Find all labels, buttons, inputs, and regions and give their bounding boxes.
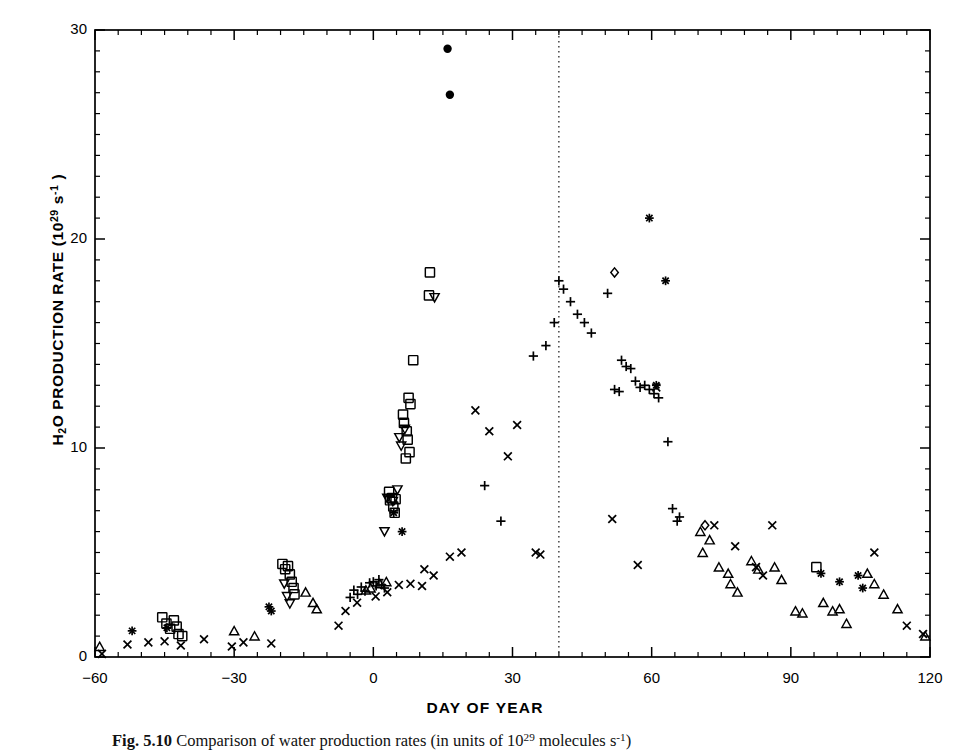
caption-end: ) bbox=[626, 731, 632, 750]
marker-triangle-up bbox=[301, 588, 310, 596]
marker-circle-filled bbox=[446, 91, 454, 99]
marker-triangle-up bbox=[835, 605, 844, 613]
figure-caption: Fig. 5.10 Comparison of water production… bbox=[112, 731, 902, 756]
marker-square bbox=[405, 448, 414, 457]
marker-triangle-up bbox=[726, 579, 735, 587]
x-tick-label: 60 bbox=[617, 669, 687, 686]
marker-triangle-up bbox=[733, 588, 742, 596]
x-tick-label: 120 bbox=[895, 669, 965, 686]
marker-square bbox=[812, 563, 821, 572]
marker-triangle-up bbox=[863, 569, 872, 577]
marker-triangle-up bbox=[230, 627, 239, 635]
marker-triangle-up bbox=[870, 579, 879, 587]
marker-triangle-up bbox=[714, 563, 723, 571]
series-plus bbox=[346, 276, 685, 602]
marker-diamond bbox=[611, 268, 619, 277]
plot-frame bbox=[95, 30, 930, 657]
x-tick-label: 90 bbox=[756, 669, 826, 686]
y-tick-label: 10 bbox=[35, 438, 87, 455]
scatter-plot bbox=[0, 0, 970, 700]
series-open-square bbox=[158, 268, 821, 641]
series-asterisk bbox=[128, 214, 867, 636]
marker-triangle-up bbox=[842, 619, 851, 627]
marker-triangle-up bbox=[698, 548, 707, 556]
marker-triangle-up bbox=[879, 590, 888, 598]
y-axis-label: H2O PRODUCTION RATE (1029 s-1 ) bbox=[48, 100, 67, 520]
marker-triangle-up bbox=[770, 563, 779, 571]
marker-triangle-up bbox=[819, 598, 828, 606]
caption-figure-number: Fig. 5.10 bbox=[112, 731, 172, 750]
x-tick-label: −30 bbox=[199, 669, 269, 686]
figure-container: H2O PRODUCTION RATE (1029 s-1 ) DAY OF Y… bbox=[0, 0, 970, 756]
series-open-up-triangle bbox=[95, 527, 930, 650]
marker-square bbox=[409, 356, 418, 365]
marker-square bbox=[425, 268, 434, 277]
marker-circle-filled bbox=[443, 45, 451, 53]
marker-triangle-up bbox=[777, 575, 786, 583]
marker-triangle-up bbox=[724, 569, 733, 577]
marker-diamond bbox=[701, 521, 709, 530]
marker-triangle-up bbox=[893, 605, 902, 613]
series-filled-circle bbox=[443, 45, 454, 99]
marker-triangle-up bbox=[791, 607, 800, 615]
x-tick-label: 0 bbox=[338, 669, 408, 686]
x-tick-label: −60 bbox=[60, 669, 130, 686]
marker-triangle-up bbox=[312, 605, 321, 613]
series-open-down-triangle bbox=[280, 294, 440, 608]
caption-tail: molecules s bbox=[535, 731, 617, 750]
marker-triangle-up bbox=[250, 632, 259, 640]
marker-triangle-up bbox=[705, 536, 714, 544]
caption-exponent: 29 bbox=[524, 731, 535, 743]
series-open-diamond bbox=[611, 268, 709, 530]
marker-triangle-up bbox=[95, 642, 104, 650]
marker-triangle-down bbox=[285, 600, 294, 608]
y-tick-label: 0 bbox=[35, 647, 87, 664]
x-axis-label: DAY OF YEAR bbox=[0, 699, 970, 717]
y-tick-label: 20 bbox=[35, 229, 87, 246]
y-tick-label: 30 bbox=[35, 20, 87, 37]
marker-triangle-up bbox=[747, 556, 756, 564]
caption-exponent-2: -1 bbox=[616, 731, 625, 743]
x-tick-label: 30 bbox=[478, 669, 548, 686]
marker-square bbox=[401, 454, 410, 463]
marker-triangle-down bbox=[380, 528, 389, 536]
caption-body: Comparison of water production rates (in… bbox=[176, 731, 523, 750]
